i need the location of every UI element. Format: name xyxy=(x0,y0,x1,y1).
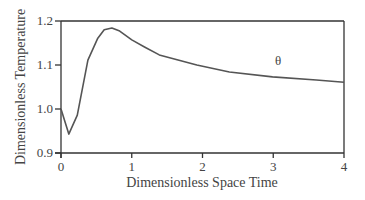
x-tick-label: 0 xyxy=(58,159,65,174)
y-tick-label: 0.9 xyxy=(37,145,53,160)
y-axis-ticks: 0.91.01.11.2 xyxy=(37,13,61,160)
plot-frame xyxy=(55,21,344,158)
data-series xyxy=(61,28,344,134)
theta-annotation: θ xyxy=(275,53,281,68)
series-line xyxy=(61,28,344,134)
x-tick-label: 1 xyxy=(129,159,136,174)
line-chart: 0.91.01.11.2 01234 θ Dimensionless Space… xyxy=(0,0,365,200)
y-tick-label: 1.0 xyxy=(37,101,53,116)
x-axis-title: Dimensionless Space Time xyxy=(126,175,278,190)
y-tick-label: 1.2 xyxy=(37,13,53,28)
y-axis-title: Dimensionless Temperature xyxy=(13,9,28,165)
x-tick-label: 2 xyxy=(199,159,206,174)
x-axis-ticks: 01234 xyxy=(58,153,348,174)
x-tick-label: 4 xyxy=(341,159,348,174)
x-tick-label: 3 xyxy=(270,159,277,174)
y-tick-label: 1.1 xyxy=(37,57,53,72)
